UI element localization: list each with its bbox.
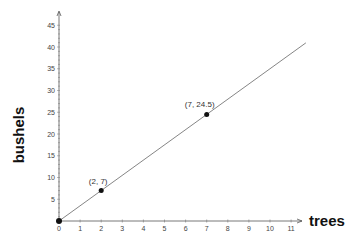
x-tick-label: 5 <box>163 225 167 232</box>
x-tick-label: 0 <box>57 225 61 232</box>
x-tick-label: 4 <box>141 225 145 232</box>
y-axis-title: bushels <box>10 107 27 164</box>
x-tick-label: 2 <box>99 225 103 232</box>
data-line <box>59 43 306 221</box>
line-chart: 51015202530354045 01234567891011 (2, 7)(… <box>0 0 354 246</box>
data-point-label: (2, 7) <box>89 177 108 186</box>
x-tick-label: 7 <box>205 225 209 232</box>
y-tick-label: 5 <box>51 196 55 203</box>
x-tick-label: 11 <box>287 225 294 232</box>
data-point-marker <box>99 188 104 193</box>
y-tick-label: 45 <box>47 22 55 29</box>
x-tick-label: 10 <box>266 225 274 232</box>
y-tick-label: 15 <box>47 152 55 159</box>
y-axis: 51015202530354045 <box>47 11 61 221</box>
y-tick-label: 25 <box>47 109 55 116</box>
x-tick-label: 1 <box>78 225 82 232</box>
x-tick-label: 9 <box>247 225 251 232</box>
y-tick-label: 35 <box>47 65 55 72</box>
y-tick-label: 30 <box>47 87 55 94</box>
data-point-marker <box>56 218 62 224</box>
data-point-marker <box>204 112 209 117</box>
x-axis-title: trees <box>309 212 345 229</box>
y-tick-label: 40 <box>47 44 55 51</box>
x-axis: 01234567891011 <box>57 219 302 232</box>
y-tick-label: 20 <box>47 131 55 138</box>
x-tick-label: 6 <box>184 225 188 232</box>
x-tick-label: 8 <box>226 225 230 232</box>
data-point-label: (7, 24.5) <box>185 100 215 109</box>
x-tick-label: 3 <box>120 225 124 232</box>
y-tick-label: 10 <box>47 174 55 181</box>
data-points: (2, 7)(7, 24.5) <box>56 100 215 224</box>
